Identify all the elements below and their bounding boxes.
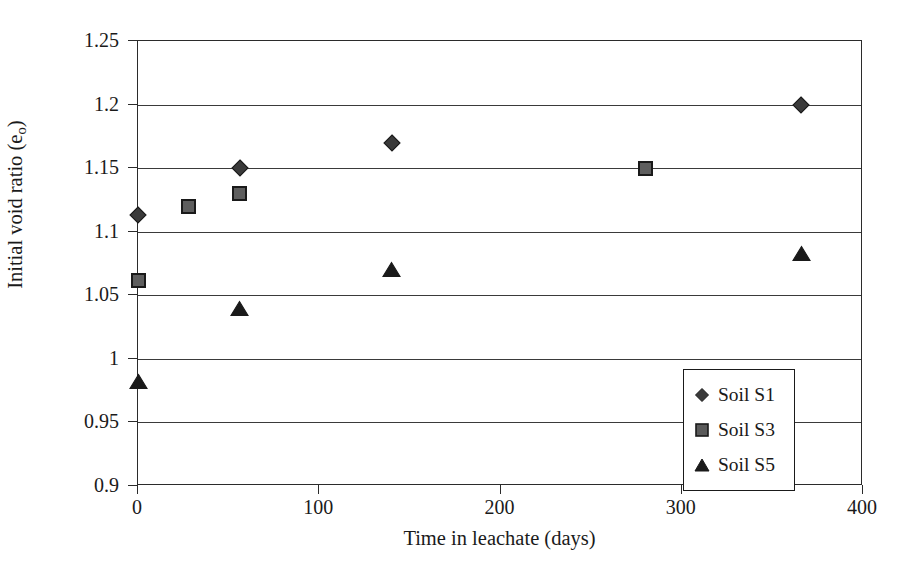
y-tick-mark bbox=[128, 167, 137, 168]
data-point-soil-s5 bbox=[792, 245, 811, 262]
x-tick-mark bbox=[500, 485, 501, 494]
x-tick-mark bbox=[681, 485, 682, 494]
data-point-soil-s1 bbox=[383, 134, 401, 152]
y-tick-mark bbox=[128, 231, 137, 232]
y-tick-label: 1 bbox=[0, 348, 119, 368]
y-tick-mark bbox=[128, 104, 137, 105]
legend-item-soil-s5[interactable]: Soil S5 bbox=[684, 447, 794, 482]
data-point-soil-s5 bbox=[129, 373, 148, 390]
gridline bbox=[138, 295, 861, 296]
gridline bbox=[138, 232, 861, 233]
y-axis-title: Initial void ratio (eo) bbox=[4, 5, 29, 405]
x-tick-mark bbox=[137, 485, 138, 494]
legend: Soil S1 Soil S3 Soil S5 bbox=[683, 369, 795, 491]
chart-figure: Initial void ratio (eo) 0.90.9511.051.11… bbox=[0, 0, 919, 571]
x-tick-label: 400 bbox=[817, 496, 907, 518]
gridline bbox=[138, 105, 861, 106]
data-point-soil-s3 bbox=[231, 185, 248, 202]
data-point-soil-s5 bbox=[230, 300, 249, 317]
x-tick-mark bbox=[862, 485, 863, 494]
x-tick-mark bbox=[318, 485, 319, 494]
y-tick-mark bbox=[128, 294, 137, 295]
y-tick-label: 0.9 bbox=[0, 475, 119, 495]
y-tick-label: 0.95 bbox=[0, 411, 119, 431]
y-tick-mark bbox=[128, 485, 137, 486]
data-point-soil-s3 bbox=[180, 198, 197, 215]
x-axis-title: Time in leachate (days) bbox=[137, 527, 862, 550]
x-tick-label: 0 bbox=[92, 496, 182, 518]
triangle-marker-icon bbox=[692, 455, 712, 475]
data-point-soil-s1 bbox=[792, 96, 810, 114]
y-tick-mark bbox=[128, 421, 137, 422]
y-axis-title-tail: ) bbox=[4, 120, 26, 127]
y-tick-mark bbox=[128, 358, 137, 359]
legend-label-soil-s5: Soil S5 bbox=[718, 455, 775, 475]
data-point-soil-s3 bbox=[637, 160, 654, 177]
legend-item-soil-s1[interactable]: Soil S1 bbox=[684, 377, 794, 412]
square-marker-icon bbox=[692, 420, 712, 440]
y-tick-label: 1.15 bbox=[0, 157, 119, 177]
y-tick-mark bbox=[128, 40, 137, 41]
y-tick-label: 1.05 bbox=[0, 284, 119, 304]
legend-label-soil-s1: Soil S1 bbox=[718, 385, 775, 405]
x-tick-label: 100 bbox=[273, 496, 363, 518]
x-tick-label: 300 bbox=[636, 496, 726, 518]
legend-item-soil-s3[interactable]: Soil S3 bbox=[684, 412, 794, 447]
data-point-soil-s3 bbox=[130, 272, 147, 289]
data-point-soil-s1 bbox=[231, 159, 249, 177]
data-point-soil-s5 bbox=[382, 261, 401, 278]
data-point-soil-s1 bbox=[129, 206, 147, 224]
x-tick-label: 200 bbox=[455, 496, 545, 518]
legend-label-soil-s3: Soil S3 bbox=[718, 420, 775, 440]
y-axis-title-subscript: o bbox=[13, 127, 29, 134]
y-tick-label: 1.25 bbox=[0, 30, 119, 50]
y-tick-label: 1.1 bbox=[0, 221, 119, 241]
plot-area: Soil S1 Soil S3 Soil S5 bbox=[137, 40, 862, 485]
diamond-marker-icon bbox=[692, 385, 712, 405]
gridline bbox=[138, 359, 861, 360]
y-tick-label: 1.2 bbox=[0, 94, 119, 114]
